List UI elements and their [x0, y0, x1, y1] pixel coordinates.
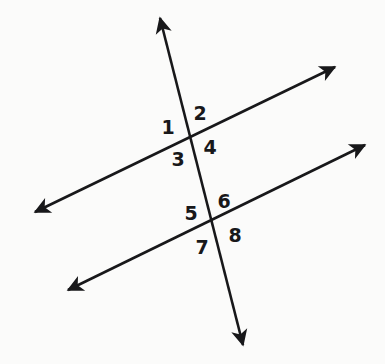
angle-label-2: 2: [193, 102, 206, 124]
angle-label-6: 6: [217, 190, 230, 212]
geometry-diagram: 1 2 3 4 5 6 7 8: [0, 0, 385, 364]
angle-label-4: 4: [203, 136, 216, 158]
angle-label-1: 1: [161, 116, 174, 138]
angle-label-3: 3: [171, 148, 184, 170]
angle-label-7: 7: [195, 236, 208, 258]
angle-label-5: 5: [184, 202, 197, 224]
geometry-canvas: 1 2 3 4 5 6 7 8: [0, 0, 385, 364]
upper-parallel-line: [35, 67, 335, 212]
lines-group: [35, 18, 365, 345]
lower-parallel-line: [68, 145, 365, 290]
transversal-line: [160, 18, 243, 345]
angle-label-8: 8: [228, 224, 241, 246]
